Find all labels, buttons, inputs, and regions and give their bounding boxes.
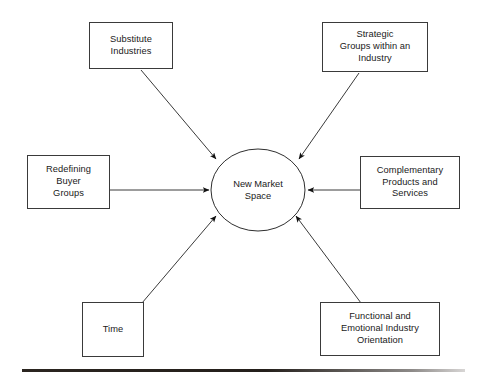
node-label: Strategic Groups within an Industry [340, 29, 411, 65]
node-label: Substitute Industries [110, 34, 152, 58]
arrow-strategic-groups [299, 73, 359, 159]
node-strategic-groups[interactable]: Strategic Groups within an Industry [322, 22, 428, 72]
diagram-canvas: Substitute Industries Strategic Groups w… [0, 0, 483, 376]
node-label: Time [103, 324, 124, 336]
node-label: Complementary Products and Services [377, 165, 443, 201]
node-time[interactable]: Time [82, 302, 144, 357]
node-label: Functional and Emotional Industry Orient… [341, 311, 419, 347]
node-functional-emotional-orientation[interactable]: Functional and Emotional Industry Orient… [320, 302, 440, 356]
arrow-time [142, 216, 216, 303]
arrow-substitute-industries [141, 70, 216, 159]
footer-rule [22, 369, 465, 372]
node-label: Redefining Buyer Groups [46, 164, 91, 200]
node-substitute-industries[interactable]: Substitute Industries [89, 22, 173, 69]
node-redefining-buyer-groups[interactable]: Redefining Buyer Groups [27, 155, 110, 209]
arrow-functional-emotional [296, 216, 361, 303]
node-complementary-products-services[interactable]: Complementary Products and Services [360, 156, 460, 209]
new-market-space-ellipse [211, 149, 305, 231]
